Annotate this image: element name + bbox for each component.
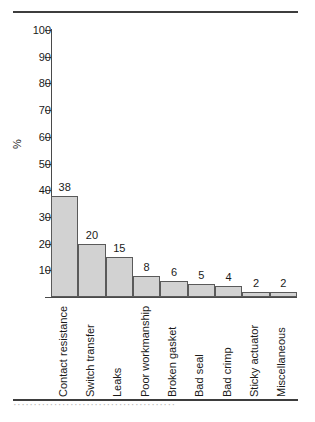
caption-fragment-text: ········································ bbox=[13, 404, 298, 410]
y-axis-tick-label: 70 bbox=[11, 105, 51, 116]
category-label-slot: Bad seal bbox=[188, 302, 215, 397]
x-axis-category-labels: Contact resistanceSwitch transferLeaksPo… bbox=[51, 302, 297, 397]
y-axis-tick-label: 40 bbox=[11, 185, 51, 196]
category-label-slot: Switch transfer bbox=[78, 302, 105, 397]
category-label: Miscellaneous bbox=[276, 327, 287, 397]
bar bbox=[188, 284, 215, 297]
y-axis-tick-label: 80 bbox=[11, 78, 51, 89]
category-label-slot: Contact resistance bbox=[51, 302, 78, 397]
category-label: Sticky actuator bbox=[249, 325, 260, 397]
bar bbox=[270, 292, 297, 297]
bar-slot: 2 bbox=[242, 30, 269, 297]
category-label: Switch transfer bbox=[85, 324, 96, 397]
category-label-slot: Leaks bbox=[106, 302, 133, 397]
y-axis-tick-label: 20 bbox=[11, 239, 51, 250]
y-axis-tick bbox=[45, 297, 51, 298]
bar-slot: 15 bbox=[106, 30, 133, 297]
category-label: Contact resistance bbox=[58, 306, 69, 397]
bar-value-label: 20 bbox=[78, 230, 105, 241]
category-label-slot: Bad crimp bbox=[215, 302, 242, 397]
y-axis-tick-label: 30 bbox=[11, 212, 51, 223]
category-label: Poor workmanship bbox=[140, 306, 151, 397]
bar-chart: 102030405060708090100 % 382015865422 Con… bbox=[0, 0, 315, 422]
y-axis-tick-label: 90 bbox=[11, 52, 51, 63]
bar-value-label: 5 bbox=[188, 270, 215, 281]
bar bbox=[160, 281, 187, 297]
bar-slot: 8 bbox=[133, 30, 160, 297]
bar bbox=[78, 244, 105, 297]
bar-value-label: 8 bbox=[133, 262, 160, 273]
bottom-rule bbox=[13, 399, 298, 401]
y-axis-tick-label: 50 bbox=[11, 159, 51, 170]
bar-slot: 20 bbox=[78, 30, 105, 297]
bar-value-label: 6 bbox=[160, 267, 187, 278]
bar bbox=[242, 292, 269, 297]
bar-value-label: 38 bbox=[51, 182, 78, 193]
bar bbox=[133, 276, 160, 297]
y-axis-tick-label: 100 bbox=[11, 25, 51, 36]
category-label-slot: Broken gasket bbox=[160, 302, 187, 397]
y-axis-tick-label: 10 bbox=[11, 265, 51, 276]
category-label-slot: Sticky actuator bbox=[242, 302, 269, 397]
category-label: Leaks bbox=[112, 368, 123, 397]
bar-slot: 6 bbox=[160, 30, 187, 297]
y-axis-title: % bbox=[12, 139, 23, 149]
bar bbox=[106, 257, 133, 297]
bar-slot: 38 bbox=[51, 30, 78, 297]
bar-slot: 5 bbox=[188, 30, 215, 297]
bar-series: 382015865422 bbox=[51, 30, 297, 297]
bar-value-label: 2 bbox=[242, 278, 269, 289]
category-label-slot: Poor workmanship bbox=[133, 302, 160, 397]
category-label: Bad seal bbox=[194, 354, 205, 397]
category-label: Bad crimp bbox=[222, 347, 233, 397]
bar-value-label: 15 bbox=[106, 243, 133, 254]
bar-slot: 4 bbox=[215, 30, 242, 297]
bar-value-label: 2 bbox=[270, 278, 297, 289]
bar-value-label: 4 bbox=[215, 272, 242, 283]
bar bbox=[215, 286, 242, 297]
bar bbox=[51, 196, 78, 297]
caption-fragment: ········································ bbox=[13, 404, 298, 422]
x-axis-line bbox=[51, 297, 297, 298]
category-label-slot: Miscellaneous bbox=[270, 302, 297, 397]
category-label: Broken gasket bbox=[167, 327, 178, 397]
bar-slot: 2 bbox=[270, 30, 297, 297]
